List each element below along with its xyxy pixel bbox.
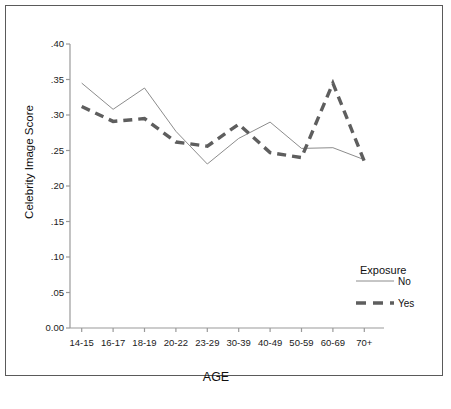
legend-label-yes: Yes: [398, 298, 414, 309]
legend-title: Exposure: [356, 264, 451, 276]
legend-label-no: No: [398, 276, 411, 287]
legend-entry-yes: Yes: [356, 298, 451, 320]
y-axis-title: Celebrity Image Score: [23, 82, 35, 242]
y-tick-label: .40: [22, 39, 64, 49]
series-line-no: [82, 83, 365, 164]
chart-frame: .40.35.30.25.20.15.10.050.00 14-1516-171…: [5, 5, 443, 376]
solid-thin-line-swatch: [356, 276, 394, 286]
chart-figure: .40.35.30.25.20.15.10.050.00 14-1516-171…: [0, 0, 451, 409]
dashed-thick-line-swatch: [356, 298, 394, 308]
chart-legend: Exposure No Yes: [356, 264, 451, 320]
y-tick-label: .05: [22, 288, 64, 298]
y-tick-label: .10: [22, 252, 64, 262]
y-tick-label: 0.00: [22, 323, 64, 333]
x-axis-title: AGE: [66, 370, 366, 384]
line-chart-plot-area: [6, 6, 444, 377]
x-tick-label: 70+: [342, 338, 386, 348]
legend-entry-no: No: [356, 276, 451, 298]
series-line-yes: [82, 83, 365, 161]
